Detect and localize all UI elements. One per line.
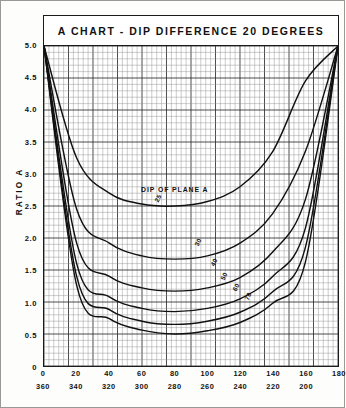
y-tick-label: 0.5 bbox=[25, 330, 37, 339]
y-tick-label: 2.5 bbox=[25, 202, 37, 211]
x-tick-label-primary: 180 bbox=[332, 369, 346, 378]
y-tick-label: 5.0 bbox=[25, 41, 37, 50]
x-tick-label-secondary: 220 bbox=[266, 382, 280, 391]
x-tick-label-secondary: 260 bbox=[200, 382, 214, 391]
chart-title-box: A CHART - DIP DIFFERENCE 20 DEGREES bbox=[43, 15, 339, 45]
plot-frame: DIP OF PLANE A 253040506070 bbox=[43, 45, 339, 367]
x-tick-label-secondary: 280 bbox=[168, 382, 182, 391]
y-tick-label: 0 bbox=[32, 363, 37, 372]
y-tick-label: 1.0 bbox=[25, 298, 37, 307]
x-tick-label-secondary: 320 bbox=[102, 382, 116, 391]
x-tick-label-secondary: 240 bbox=[233, 382, 247, 391]
x-tick-label-secondary: 300 bbox=[135, 382, 149, 391]
y-tick-label: 1.5 bbox=[25, 266, 37, 275]
y-tick-label: 3.0 bbox=[25, 169, 37, 178]
y-tick-label: 4.0 bbox=[25, 105, 37, 114]
y-axis-title: RATIO A bbox=[15, 152, 24, 232]
x-tick-label-primary: 80 bbox=[170, 369, 179, 378]
x-tick-label-primary: 140 bbox=[266, 369, 280, 378]
x-tick-label-primary: 0 bbox=[41, 369, 46, 378]
x-tick-label-secondary: 360 bbox=[36, 382, 50, 391]
x-tick-label-primary: 160 bbox=[299, 369, 313, 378]
curve-lines bbox=[44, 46, 338, 366]
y-tick-label: 4.5 bbox=[25, 73, 37, 82]
x-tick-label-secondary: 200 bbox=[299, 382, 313, 391]
annotation-dip-of-plane: DIP OF PLANE A bbox=[141, 186, 208, 193]
x-tick-label-primary: 20 bbox=[71, 369, 80, 378]
plot-area: DIP OF PLANE A 253040506070 bbox=[43, 45, 339, 367]
x-tick-label-primary: 40 bbox=[104, 369, 113, 378]
page-title: A CHART - DIP DIFFERENCE 20 DEGREES bbox=[58, 24, 325, 37]
y-tick-label: 2.0 bbox=[25, 234, 37, 243]
y-tick-label: 3.5 bbox=[25, 137, 37, 146]
x-tick-label-primary: 100 bbox=[200, 369, 214, 378]
x-axis-labels: 0204060801001201401601803603403203002802… bbox=[43, 369, 339, 403]
x-tick-label-secondary: 340 bbox=[69, 382, 83, 391]
x-tick-label-primary: 60 bbox=[137, 369, 146, 378]
x-tick-label-primary: 120 bbox=[233, 369, 247, 378]
